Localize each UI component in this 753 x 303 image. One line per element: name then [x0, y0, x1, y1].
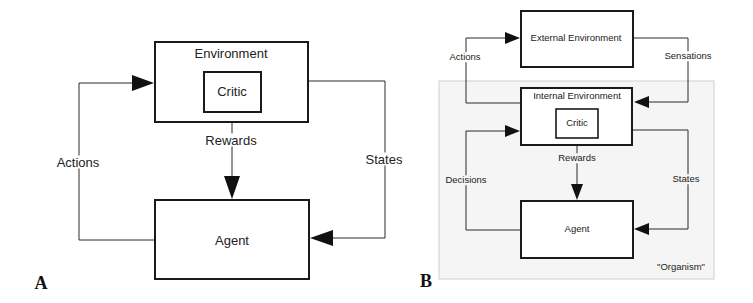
panel-label-a: A	[35, 274, 48, 292]
actions-label-a: Actions	[55, 156, 102, 169]
states-label-a: States	[364, 153, 405, 166]
rewards-label-b: Rewards	[556, 153, 598, 163]
organism-label: "Organism"	[655, 262, 707, 272]
agent-label-b: Agent	[563, 224, 592, 234]
internal-environment-label: Internal Environment	[531, 91, 623, 101]
states-label-b: States	[671, 174, 702, 184]
actions-label-b: Actions	[447, 52, 482, 62]
panel-label-b: B	[420, 272, 432, 290]
agent-label-a: Agent	[213, 234, 251, 247]
environment-label-a: Environment	[193, 47, 270, 60]
decisions-label-b: Decisions	[443, 175, 488, 185]
rewards-label-a: Rewards	[203, 134, 258, 147]
external-environment-label: External Environment	[529, 33, 624, 43]
arrowhead-icon	[132, 75, 154, 91]
critic-label-b: Critic	[564, 118, 590, 128]
arrowhead-icon	[310, 230, 333, 246]
arrowhead-icon	[224, 176, 240, 199]
sensations-label-b: Sensations	[662, 51, 713, 61]
arrowhead-icon	[505, 32, 520, 44]
critic-label-a: Critic	[215, 85, 249, 98]
